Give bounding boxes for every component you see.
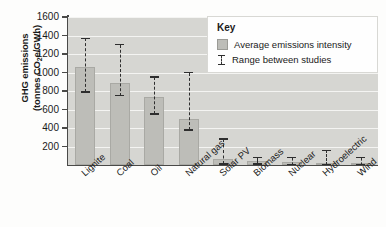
y-tick-label-200: 200 xyxy=(0,142,59,152)
error-cap-upper-hydroelectric xyxy=(322,150,331,151)
legend-box: Key Average emissions intensity Range be… xyxy=(207,16,378,73)
y-tick-label-600: 600 xyxy=(0,105,59,115)
error-bar-natural-gas xyxy=(189,73,190,130)
y-tick-label-1600: 1600 xyxy=(0,12,59,22)
y-tick-label-1000: 1000 xyxy=(0,68,59,78)
error-cap-upper-lignite xyxy=(81,38,90,39)
legend-label-range: Range between studies xyxy=(232,54,331,65)
error-bar-lignite xyxy=(85,38,86,92)
legend-title: Key xyxy=(217,22,369,33)
error-cap-upper-nuclear xyxy=(287,157,296,158)
y-tick-label-400: 400 xyxy=(0,123,59,133)
y-tick-label-1200: 1200 xyxy=(0,49,59,59)
legend-entry-average: Average emissions intensity xyxy=(217,37,369,52)
error-cap-upper-coal xyxy=(115,44,124,45)
error-cap-upper-oil xyxy=(150,76,159,77)
legend-swatch-icon xyxy=(217,39,228,50)
error-cap-lower-coal xyxy=(115,95,124,96)
error-cap-upper-wind xyxy=(356,157,365,158)
chart-container: GHG emissions (tonnes CO2e/GWh) 20040060… xyxy=(0,0,386,227)
legend-entry-range: Range between studies xyxy=(217,52,369,67)
error-cap-lower-oil xyxy=(150,113,159,114)
legend-errorbar-icon xyxy=(217,54,226,66)
error-cap-upper-biomass xyxy=(253,157,262,158)
y-tick-label-800: 800 xyxy=(0,86,59,96)
error-cap-lower-lignite xyxy=(81,91,90,92)
error-bar-coal xyxy=(120,45,121,96)
error-cap-upper-natural-gas xyxy=(184,72,193,73)
y-tick-label-1400: 1400 xyxy=(0,31,59,41)
error-cap-lower-natural-gas xyxy=(184,129,193,130)
error-bar-oil xyxy=(154,77,155,114)
legend-label-average: Average emissions intensity xyxy=(234,39,352,50)
